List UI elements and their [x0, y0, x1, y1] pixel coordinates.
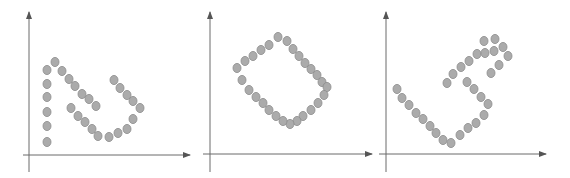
data-point [447, 138, 455, 147]
data-point [464, 123, 472, 132]
data-point [92, 101, 100, 110]
panel-2 [203, 12, 372, 172]
data-point [439, 135, 447, 144]
data-point [314, 98, 322, 107]
data-point [67, 103, 75, 112]
data-point [58, 66, 66, 75]
data-point [307, 105, 315, 114]
data-point [129, 114, 137, 123]
data-point [241, 56, 249, 65]
data-point [94, 131, 102, 140]
data-point [252, 92, 260, 101]
data-point [504, 51, 512, 60]
data-point [426, 121, 434, 130]
data-point [470, 84, 478, 93]
data-point [279, 116, 287, 125]
data-point [114, 128, 122, 137]
data-point [238, 75, 246, 84]
data-point [105, 132, 113, 141]
data-point [265, 105, 273, 114]
data-point [465, 56, 473, 65]
data-point [499, 42, 507, 51]
data-point [480, 36, 488, 45]
data-point [481, 48, 489, 57]
data-point [51, 57, 59, 66]
data-point [432, 128, 440, 137]
data-point [405, 100, 413, 109]
data-point [136, 103, 144, 112]
data-point [249, 51, 257, 60]
data-point [129, 96, 137, 105]
data-point [274, 32, 282, 41]
data-point [43, 121, 51, 130]
data-point [65, 74, 73, 83]
data-point [320, 90, 328, 99]
data-point [265, 40, 273, 49]
data-point [419, 114, 427, 123]
data-point [259, 98, 267, 107]
panel-1 [23, 12, 190, 172]
data-point [495, 60, 503, 69]
data-point [74, 111, 82, 120]
data-point [43, 137, 51, 146]
data-point [398, 93, 406, 102]
figure-canvas [0, 0, 570, 178]
data-point [477, 92, 485, 101]
data-point [245, 85, 253, 94]
panel-3 [379, 12, 546, 172]
data-point [123, 124, 131, 133]
data-point [78, 89, 86, 98]
data-point [449, 69, 457, 78]
data-point [272, 111, 280, 120]
data-point [85, 94, 93, 103]
scatter-diagram [0, 0, 570, 178]
data-point [81, 117, 89, 126]
data-point [43, 65, 51, 74]
data-point [473, 49, 481, 58]
data-point [443, 78, 451, 87]
data-point [463, 77, 471, 86]
data-point [480, 110, 488, 119]
data-point [490, 46, 498, 55]
data-point [472, 118, 480, 127]
data-point [412, 108, 420, 117]
data-point [110, 75, 118, 84]
data-point [233, 63, 241, 72]
data-point [456, 130, 464, 139]
data-point [491, 34, 499, 43]
data-point [393, 84, 401, 93]
data-point [71, 81, 79, 90]
data-point [283, 36, 291, 45]
data-point [487, 68, 495, 77]
data-point [43, 92, 51, 101]
data-point [116, 83, 124, 92]
data-point [257, 45, 265, 54]
data-point [289, 44, 297, 53]
data-point [43, 107, 51, 116]
data-point [88, 124, 96, 133]
data-point [484, 99, 492, 108]
data-point [295, 51, 303, 60]
data-point [43, 79, 51, 88]
data-point [457, 62, 465, 71]
